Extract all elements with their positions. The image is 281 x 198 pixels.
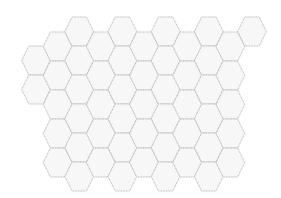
hexagon-grid bbox=[0, 0, 281, 198]
